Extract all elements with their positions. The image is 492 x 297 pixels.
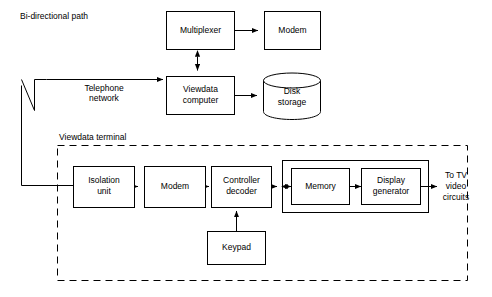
label-telephone-network-line2: network <box>89 93 120 103</box>
label-controller-decoder-line1: Controller <box>223 175 260 185</box>
label-to-tv-line2: video <box>446 181 467 191</box>
label-multiplexer: Multiplexer <box>180 25 221 35</box>
label-bidirectional-path: Bi-directional path <box>20 11 88 21</box>
label-telephone-network-line1: Telephone <box>84 83 124 93</box>
label-controller-decoder-line2: decoder <box>226 186 257 196</box>
label-modem-top: Modem <box>278 25 306 35</box>
label-display-generator-line2: generator <box>373 186 410 196</box>
line-break-zigzag <box>22 80 47 111</box>
label-viewdata-computer-line2: computer <box>183 95 219 105</box>
label-display-generator-line1: Display <box>377 175 406 185</box>
label-keypad: Keypad <box>222 242 251 252</box>
label-modem-terminal: Modem <box>161 181 189 191</box>
label-to-tv-line1: To TV <box>445 170 467 180</box>
label-viewdata-terminal: Viewdata terminal <box>59 132 127 142</box>
label-disk-storage-line1: Disk <box>284 86 301 96</box>
viewdata-system-diagram: Bi-directional path Telephone network Vi… <box>0 0 492 297</box>
label-isolation-unit-line1: Isolation <box>88 175 120 185</box>
diagram-canvas: Bi-directional path Telephone network Vi… <box>0 0 492 297</box>
node-disk-storage[interactable] <box>264 73 321 120</box>
label-viewdata-computer-line1: Viewdata <box>183 84 218 94</box>
label-isolation-unit-line2: unit <box>97 186 111 196</box>
label-memory: Memory <box>305 181 336 191</box>
label-to-tv-line3: circuits <box>443 192 469 202</box>
label-disk-storage-line2: storage <box>278 97 307 107</box>
